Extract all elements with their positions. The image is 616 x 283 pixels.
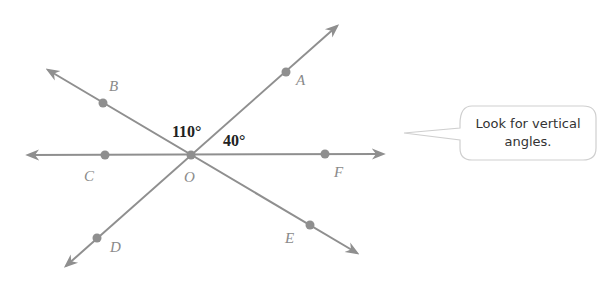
hint-callout: Look for vertical angles.: [404, 106, 596, 160]
point-D-dot: [93, 234, 102, 243]
label-F: F: [333, 164, 344, 180]
point-C-dot: [101, 151, 110, 160]
angle-label-40: 40°: [223, 132, 245, 149]
vertical-angles-diagram: A B C D E F O 110° 40° Look for vertical…: [0, 0, 616, 283]
line-DA: [66, 26, 337, 266]
point-E-dot: [306, 221, 315, 230]
label-C: C: [84, 168, 95, 184]
line-CF: [28, 154, 383, 155]
point-A-dot: [282, 68, 291, 77]
point-B-dot: [99, 99, 108, 108]
callout-line-1: Look for vertical: [475, 116, 580, 131]
point-F-dot: [321, 150, 330, 159]
label-A: A: [295, 72, 306, 88]
label-B: B: [109, 78, 118, 94]
callout-line-2: angles.: [505, 134, 552, 149]
label-O: O: [184, 169, 195, 185]
angle-label-110: 110°: [172, 123, 202, 140]
label-D: D: [109, 239, 121, 255]
vertex-O-dot: [187, 151, 196, 160]
label-E: E: [284, 230, 294, 246]
